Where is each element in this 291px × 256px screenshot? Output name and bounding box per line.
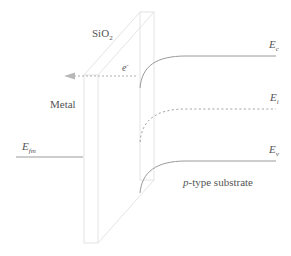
ei-label: Ei: [269, 91, 279, 106]
electron-label: e-: [122, 62, 128, 73]
ev-label: Ev: [268, 143, 280, 158]
oxide-front-face: [84, 75, 98, 243]
oxide-label: SiO2: [92, 27, 113, 42]
arrowhead-left-icon: [64, 73, 75, 80]
efm-label: Efm: [21, 140, 36, 155]
metal-label: Metal: [50, 98, 76, 110]
substrate-label: p-type substrate: [182, 176, 253, 188]
ec-label: Ec: [268, 38, 280, 53]
mos-band-diagram: SiO2 e- Metal Efm Ec Ei Ev p-type substr…: [0, 0, 291, 256]
oxide-edge-top-left: [84, 12, 140, 75]
band-ei: [140, 109, 276, 142]
band-ec: [140, 56, 276, 88]
oxide-edge-bottom-right: [98, 180, 154, 243]
electron-arrow: [64, 73, 138, 80]
oxide-back-face: [140, 12, 154, 180]
